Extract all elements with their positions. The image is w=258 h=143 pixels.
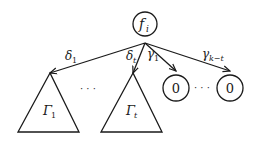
edge-label-delta1: δ 1 [65, 49, 77, 65]
edge-label-gammakt: γ k−t [202, 47, 225, 63]
svg-text:0: 0 [172, 81, 180, 96]
ellipsis-subtrees: · · · [80, 83, 96, 94]
root-subscript: i [146, 24, 149, 34]
svg-text:1: 1 [51, 111, 56, 120]
svg-text:1: 1 [154, 54, 159, 63]
subtree-gamma1: Γ 1 [18, 73, 79, 132]
svg-text:1: 1 [72, 56, 77, 65]
leaf-zero-1: 0 [163, 75, 189, 101]
ellipsis-leaves: · · · [194, 82, 210, 93]
svg-text:0: 0 [226, 81, 234, 96]
subtree-gammat: Γ t [101, 73, 162, 132]
tree-diagram: f i δ 1 δ t γ 1 γ k−t Γ 1 · · · Γ t 0 · [0, 0, 258, 143]
edge-label-deltat: δ t [126, 49, 137, 65]
svg-text:t: t [134, 111, 138, 120]
edge-label-gamma1: γ 1 [147, 47, 159, 63]
leaf-zero-2: 0 [217, 75, 243, 101]
svg-text:k−t: k−t [209, 54, 225, 63]
root-node: f i [133, 12, 157, 36]
